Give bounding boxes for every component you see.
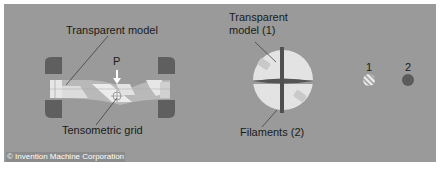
left-bottom-clamp (45, 100, 62, 118)
label-transparent-model-1-line2: model (1) (229, 24, 275, 36)
copyright-credit: © Invention Machine Corporation (6, 152, 125, 162)
label-filaments: Filaments (2) (240, 126, 304, 138)
legend-2-swatch (402, 74, 414, 86)
right-top-clamp (158, 57, 175, 74)
label-transparent-model-1-line1: Transparent (229, 11, 288, 23)
leader-transparent-model (66, 36, 108, 85)
label-load-p: P (113, 55, 120, 67)
legend-1-swatch (363, 74, 375, 86)
beam-model (45, 36, 175, 125)
right-bottom-clamp (158, 100, 175, 118)
left-top-clamp (45, 57, 62, 74)
legend (363, 74, 414, 86)
label-tensometric-grid: Tensometric grid (62, 124, 143, 136)
label-transparent-model: Transparent model (66, 24, 158, 36)
vertical-filament (280, 47, 284, 113)
leader-filaments (262, 110, 277, 127)
legend-1-label: 1 (366, 61, 372, 73)
leader-tensometric-grid (96, 98, 117, 125)
disc-model (253, 42, 313, 127)
legend-2-label: 2 (405, 61, 411, 73)
